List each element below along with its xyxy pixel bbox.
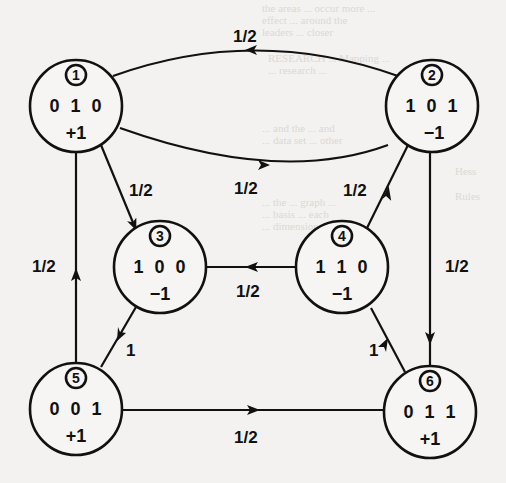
svg-text:... and the ... and: ... and the ... and <box>262 122 335 134</box>
edge-label-4-to-3: 1/2 <box>236 282 260 301</box>
edge-6-to-4 <box>371 308 405 372</box>
node-state: 0 1 0 <box>49 96 104 116</box>
svg-text:Rules: Rules <box>455 190 480 202</box>
node-4: 4 1 1 0 −1 <box>296 221 388 313</box>
node-id: 4 <box>338 228 346 244</box>
node-state: 0 0 1 <box>49 399 104 419</box>
node-state: 1 1 0 <box>315 257 370 277</box>
edge-label-4-to-2: 1/2 <box>343 181 367 200</box>
edge-4-to-2 <box>367 145 408 228</box>
node-6: 6 0 1 1 +1 <box>384 366 476 458</box>
arrowhead-icon <box>117 327 126 341</box>
node-id: 5 <box>72 370 80 386</box>
node-5: 5 0 0 1 +1 <box>30 363 122 455</box>
edge-label-1-to-3: 1/2 <box>129 181 153 200</box>
svg-text:... data set ... other: ... data set ... other <box>262 134 343 146</box>
arrowhead-icon <box>378 338 388 352</box>
node-id: 1 <box>72 67 80 83</box>
edge-label-2-to-6: 1/2 <box>445 257 469 276</box>
edge-label-1-to-2: 1/2 <box>234 179 258 198</box>
edge-label-5-to-1: 1/2 <box>32 257 56 276</box>
node-id: 6 <box>426 373 434 389</box>
node-value: −1 <box>150 284 171 304</box>
edge-label-5-to-6: 1/2 <box>234 428 258 447</box>
svg-text:... the ... graph ...: ... the ... graph ... <box>262 196 336 208</box>
node-2: 2 1 0 1 −1 <box>386 60 478 152</box>
node-value: +1 <box>66 426 87 446</box>
node-id: 3 <box>156 228 164 244</box>
node-value: −1 <box>424 123 445 143</box>
node-value: −1 <box>332 284 353 304</box>
node-state: 1 0 1 <box>405 96 460 116</box>
svg-text:... research ...: ... research ... <box>268 64 327 76</box>
node-1: 1 0 1 0 +1 <box>30 60 122 152</box>
node-state: 0 1 1 <box>403 402 458 422</box>
svg-text:... basis ... each: ... basis ... each <box>262 208 329 220</box>
svg-text:leaders ... closer: leaders ... closer <box>262 26 333 38</box>
node-value: +1 <box>420 429 441 449</box>
edge-1-to-2 <box>120 128 388 161</box>
svg-text:the areas ... occur more ...: the areas ... occur more ... <box>262 2 376 14</box>
edge-label-3-to-5: 1 <box>126 341 135 360</box>
edge-label-2-to-1: 1/2 <box>233 27 257 46</box>
node-id: 2 <box>428 67 436 83</box>
node-3: 3 1 0 0 −1 <box>114 221 206 313</box>
node-state: 1 0 0 <box>133 257 188 277</box>
svg-text:effect ... around the: effect ... around the <box>262 14 347 26</box>
edge-label-6-to-4: 1 <box>369 341 378 360</box>
node-value: +1 <box>66 123 87 143</box>
state-diagram: the areas ... occur more ... effect ... … <box>0 0 506 483</box>
svg-text:Hess: Hess <box>455 165 476 177</box>
